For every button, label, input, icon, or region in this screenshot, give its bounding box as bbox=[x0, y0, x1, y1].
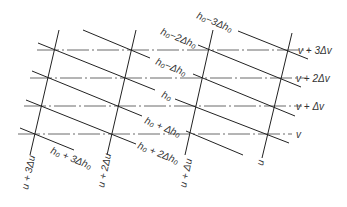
u-isolines bbox=[30, 30, 292, 158]
v-line-label: v + 3Δv bbox=[298, 45, 333, 56]
u-line bbox=[262, 33, 292, 158]
u-line-label: u + 3Δu bbox=[19, 154, 37, 191]
h-line-label: h₀ + Δh₀ bbox=[143, 115, 182, 139]
u-line bbox=[30, 30, 59, 155]
h-line bbox=[20, 128, 74, 150]
u-line bbox=[107, 30, 136, 155]
h-line bbox=[83, 30, 150, 58]
labels: v + 3Δvv + 2Δvv + Δvvu + 3Δuu + 2Δuu + Δ… bbox=[19, 10, 332, 191]
v-line-label: v + 2Δv bbox=[296, 73, 331, 84]
h-line bbox=[198, 45, 301, 87]
h-line-label: h₀ bbox=[160, 89, 173, 103]
h-line-label: h₀−3Δh₀ bbox=[195, 10, 234, 34]
h-line bbox=[186, 131, 243, 155]
h-line-label: h₀ + 2Δh₀ bbox=[136, 140, 180, 166]
u-line-label: u + Δu bbox=[177, 157, 194, 188]
u-line-label: u + 2Δu bbox=[95, 152, 113, 189]
coordinate-net-diagram: v + 3Δvv + 2Δvv + Δvvu + 3Δuu + 2Δuu + Δ… bbox=[0, 0, 347, 207]
v-line-label: v bbox=[296, 129, 302, 140]
h-line-label: h₀−Δh₀ bbox=[154, 56, 188, 78]
h-line bbox=[193, 74, 295, 116]
u-line-label: u bbox=[254, 158, 266, 166]
h-line-label: h₀−2Δh₀ bbox=[159, 26, 198, 50]
v-line-label: v + Δv bbox=[296, 101, 325, 112]
